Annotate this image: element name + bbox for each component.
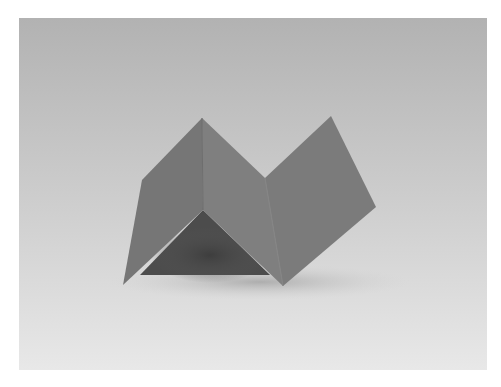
photograph bbox=[19, 18, 487, 370]
folded-paper-image bbox=[19, 18, 487, 370]
